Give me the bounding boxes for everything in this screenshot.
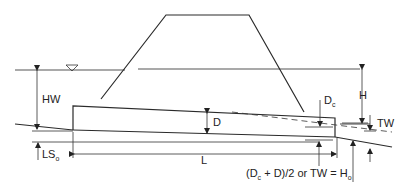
tw-label: TW (377, 117, 395, 129)
downstream-bed (335, 137, 392, 147)
ho-formula: (Dc + D)/2 or TW = Ho (246, 167, 352, 181)
culvert-invert (73, 130, 335, 137)
embankment-outline (101, 15, 304, 112)
dc-label: Dc (324, 94, 336, 108)
culvert-diagram: HW H D Dc TW L LSo (Dc + D)/2 or TW = Ho (0, 0, 407, 193)
l-label: L (201, 154, 207, 166)
ls-label: LSo (42, 148, 59, 162)
d-label: D (213, 116, 221, 128)
upstream-bed (15, 124, 73, 130)
h-label: H (359, 89, 367, 101)
hw-label: HW (42, 93, 61, 105)
culvert-top (73, 106, 335, 137)
hydraulic-grade-line (232, 112, 392, 132)
